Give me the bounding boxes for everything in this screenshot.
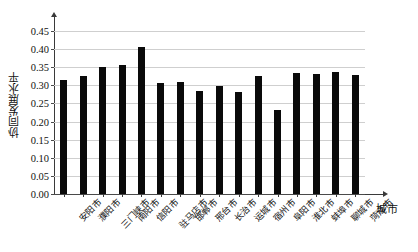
bar[interactable] xyxy=(138,47,145,194)
gridline xyxy=(54,194,365,195)
y-axis-tick-label: 0.05 xyxy=(31,170,49,181)
x-axis-tick-mark xyxy=(200,194,201,197)
x-axis-tick-mark xyxy=(297,194,298,197)
y-axis-tick-mark xyxy=(51,194,54,195)
bar[interactable] xyxy=(157,83,164,194)
x-axis-tick-mark xyxy=(316,194,317,197)
bar[interactable] xyxy=(99,67,106,194)
x-axis-tick-mark xyxy=(161,194,162,197)
x-axis-tick-mark xyxy=(336,194,337,197)
bar[interactable] xyxy=(332,72,339,194)
bar[interactable] xyxy=(255,76,262,194)
bar[interactable] xyxy=(313,74,320,194)
bar[interactable] xyxy=(60,80,67,194)
x-axis-tick-mark xyxy=(64,194,65,197)
y-axis-tick-label: 0.10 xyxy=(31,152,49,163)
y-axis-tick-label: 0.00 xyxy=(31,189,49,200)
bar[interactable] xyxy=(196,91,203,194)
x-axis-tick-mark xyxy=(122,194,123,197)
x-axis-title: 城市 xyxy=(376,200,398,216)
bars-layer xyxy=(54,22,365,194)
x-axis-tick-mark xyxy=(239,194,240,197)
x-axis-tick-mark xyxy=(83,194,84,197)
bar[interactable] xyxy=(216,86,223,194)
bar[interactable] xyxy=(80,76,87,194)
y-axis-tick-label: 0.20 xyxy=(31,116,49,127)
y-axis-tick-label: 0.40 xyxy=(31,44,49,55)
bar[interactable] xyxy=(235,92,242,194)
x-axis-tick-labels: 安阳市濮阳市三门峡市南阳市信阳市驻马店市邯郸市邢台市长治市运城市宿州市阜阳市淮北… xyxy=(54,196,365,252)
x-axis-tick-mark xyxy=(278,194,279,197)
x-axis-tick-mark xyxy=(258,194,259,197)
x-axis-tick-mark xyxy=(141,194,142,197)
x-axis-tick-mark xyxy=(219,194,220,197)
bar[interactable] xyxy=(293,73,300,194)
plot-area: 0.000.050.100.150.200.250.300.350.400.45 xyxy=(54,22,365,194)
bar[interactable] xyxy=(274,110,281,194)
x-axis-tick-mark xyxy=(180,194,181,197)
bar-chart: 协同发展水平 0.000.050.100.150.200.250.300.350… xyxy=(0,0,418,252)
y-axis-tick-label: 0.25 xyxy=(31,98,49,109)
y-axis-tick-label: 0.35 xyxy=(31,62,49,73)
y-axis-tick-label: 0.45 xyxy=(31,26,49,37)
x-axis-tick-mark xyxy=(355,194,356,197)
bar[interactable] xyxy=(177,82,184,194)
bar[interactable] xyxy=(119,65,126,194)
y-axis-tick-label: 0.15 xyxy=(31,134,49,145)
y-axis-tick-label: 0.30 xyxy=(31,80,49,91)
bar[interactable] xyxy=(352,75,359,194)
y-axis-title: 协同发展水平 xyxy=(8,28,24,138)
x-axis-tick-mark xyxy=(103,194,104,197)
y-axis-arrow-icon xyxy=(51,12,57,17)
